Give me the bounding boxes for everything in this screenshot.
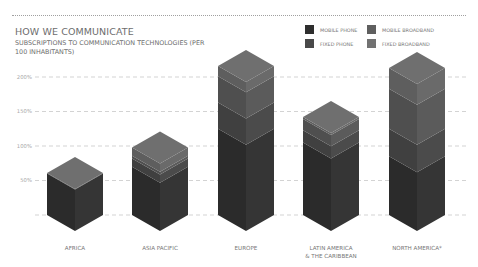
segment-left-face: [218, 129, 246, 231]
x-category-label: LATIN AMERICA& THE CARIBBEAN: [286, 245, 376, 260]
x-category-label: ASIA PACIFIC: [115, 245, 205, 253]
y-tick-label: 150%: [2, 108, 32, 114]
bar-asia-pacific: [132, 131, 188, 231]
x-category-label: NORTH AMERICA*: [372, 245, 462, 253]
bar-north-america-: [389, 52, 445, 231]
bar-europe: [218, 50, 274, 231]
x-category-label: EUROPE: [201, 245, 291, 253]
y-tick-label: 200%: [2, 74, 32, 80]
y-tick-label: 100%: [2, 143, 32, 149]
x-category-label: AFRICA: [30, 245, 120, 253]
chart-plot-area: [0, 0, 478, 267]
bar-latin-america-the-caribbean: [303, 101, 359, 231]
y-tick-label: 50%: [2, 177, 32, 183]
segment-right-face: [246, 129, 274, 231]
bar-africa: [47, 157, 103, 231]
